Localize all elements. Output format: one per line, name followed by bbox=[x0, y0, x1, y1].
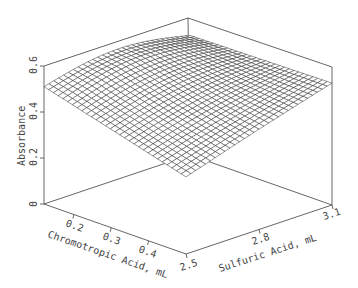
z-tick-0: 0 bbox=[28, 201, 39, 207]
x-tick-mark bbox=[73, 215, 74, 219]
z-tick-0.4: 0.4 bbox=[28, 102, 39, 120]
y-tick-3.1: 3.1 bbox=[321, 206, 342, 222]
x-tick-0.3: 0.3 bbox=[101, 230, 122, 246]
x-tick-mark bbox=[148, 241, 149, 245]
wireframe-surface bbox=[44, 35, 332, 177]
floor-back-right-edge bbox=[190, 155, 332, 205]
y-tick-2.5: 2.5 bbox=[178, 257, 199, 273]
z-tick-0.2: 0.2 bbox=[28, 148, 39, 166]
y-tick-mark bbox=[186, 254, 187, 258]
z-axis-title: Absorbance bbox=[16, 106, 27, 166]
y-tick-2.8: 2.8 bbox=[250, 231, 271, 247]
x-tick-mark bbox=[110, 228, 111, 232]
x-tick-0.4: 0.4 bbox=[137, 243, 158, 259]
z-tick-0.6: 0.6 bbox=[28, 56, 39, 74]
surface-plot: 0 0.2 0.4 0.6 Absorbance 0.2 0.3 0.4 Chr… bbox=[0, 0, 358, 288]
chromotropic-axis-line bbox=[44, 204, 186, 254]
x-tick-0.2: 0.2 bbox=[64, 217, 85, 233]
